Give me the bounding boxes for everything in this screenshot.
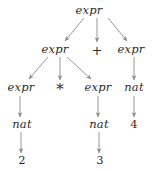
node-terminal-three: 3 [96,155,103,167]
node-nat-level3-left: nat [12,119,31,131]
node-nat-level3-mid: nat [89,119,108,131]
node-expr-level2-right: expr [85,82,112,94]
edge-expr-to-expr-left [29,57,48,79]
edge-root-to-expr-left [65,18,84,41]
node-expr-level1-left: expr [42,44,69,56]
edge-root-to-expr-right [108,18,127,41]
node-expr-level1-right: expr [118,44,145,56]
node-nat-level2-right: nat [124,82,143,94]
node-expr-level2-left: expr [8,82,35,94]
node-terminal-two: 2 [18,155,25,167]
edge-expr-to-expr-right [67,57,91,79]
node-operator-plus: + [92,44,103,57]
parse-tree-figure: expr expr + expr expr * expr nat nat nat… [0,0,157,171]
node-operator-star: * [56,82,64,97]
node-expr-root: expr [76,5,103,17]
node-terminal-four: 4 [130,119,137,131]
